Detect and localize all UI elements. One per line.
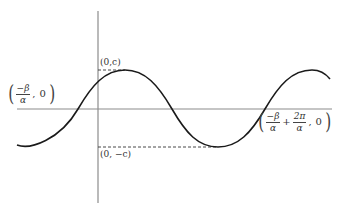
numerator: −β: [16, 84, 31, 95]
min-label-text: (0, −c): [100, 149, 131, 159]
y-zero: 0: [40, 89, 46, 99]
numerator: 2π: [293, 112, 307, 123]
close-paren: ): [49, 83, 55, 105]
open-paren: (: [258, 111, 264, 133]
max-label-text: (0,c): [100, 57, 121, 67]
comma: ,: [308, 117, 311, 127]
left-intercept-label: ( −β α , 0 ): [7, 83, 57, 105]
open-paren: (: [8, 83, 14, 105]
numerator: −β: [266, 112, 281, 123]
fraction-two-pi-over-alpha: 2π α: [293, 112, 307, 133]
max-point-label: (0,c): [100, 58, 121, 67]
denominator: α: [270, 123, 276, 133]
fraction-neg-beta-over-alpha: −β α: [16, 84, 31, 105]
sinusoid-diagram: [0, 0, 349, 213]
y-zero: 0: [316, 117, 322, 127]
plus-sign: +: [282, 117, 290, 127]
fraction-neg-beta-over-alpha: −β α: [266, 112, 281, 133]
close-paren: ): [325, 111, 331, 133]
denominator: α: [20, 95, 26, 105]
comma: ,: [32, 89, 35, 99]
right-intercept-label: ( −β α + 2π α , 0 ): [257, 111, 333, 133]
denominator: α: [297, 123, 303, 133]
min-point-label: (0, −c): [100, 150, 131, 159]
